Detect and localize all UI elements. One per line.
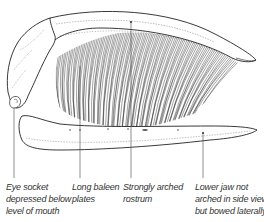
label-line: Strongly arched <box>123 181 183 193</box>
label-rostrum: Strongly arched rostrum <box>123 181 183 205</box>
label-line: plates <box>72 193 119 205</box>
label-lower-jaw: Lower jaw not arched in side view, but b… <box>195 181 264 217</box>
label-eye-socket: Eye socket depressed below level of mout… <box>6 181 71 217</box>
label-line: rostrum <box>123 193 183 205</box>
label-line: Long baleen <box>72 181 119 193</box>
lower-jaw <box>19 116 257 150</box>
label-baleen-plates: Long baleen plates <box>72 181 119 205</box>
label-line: Eye socket <box>6 181 71 193</box>
cranium <box>7 18 55 108</box>
label-line: depressed below <box>6 193 71 205</box>
label-line: level of mouth <box>6 205 71 217</box>
label-line: Lower jaw not <box>195 181 264 193</box>
label-line: arched in side view, <box>195 193 264 205</box>
label-line: but bowed laterally <box>195 205 264 217</box>
